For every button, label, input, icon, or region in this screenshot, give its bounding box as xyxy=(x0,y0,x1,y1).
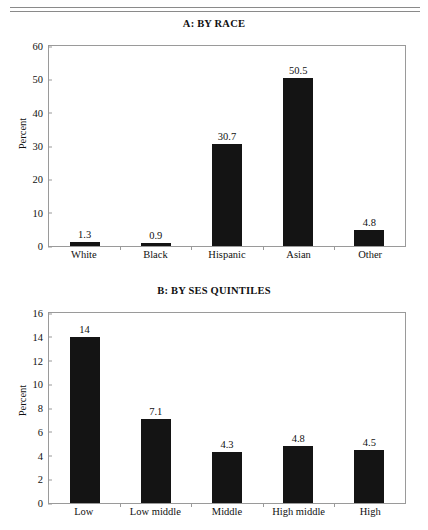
tick-mark-icon xyxy=(48,503,52,504)
chart-a-x-label: White xyxy=(48,249,120,260)
chart-a-x-axis-labels: WhiteBlackHispanicAsianOther xyxy=(48,249,406,260)
chart-a-bar-slot: 4.8 xyxy=(334,46,405,246)
chart-a-bar[interactable]: 50.5 xyxy=(283,78,313,246)
chart-b-plot-frame: 1614121086420 147.14.34.84.5 xyxy=(48,312,406,504)
divider-line-top xyxy=(10,7,420,8)
chart-a-bar-slot: 30.7 xyxy=(191,46,262,246)
chart-a-bar-value-label: 4.8 xyxy=(363,217,376,230)
chart-b-y-tick-12: 12 xyxy=(33,355,50,366)
chart-a-title: A: BY RACE xyxy=(0,18,428,33)
chart-b-bar-value-label: 4.5 xyxy=(363,437,376,450)
chart-b-bar-value-label: 7.1 xyxy=(149,406,162,419)
chart-b-y-tick-10: 10 xyxy=(33,379,50,390)
chart-a-y-tick-30: 30 xyxy=(33,141,50,152)
chart-a-bar-slot: 1.3 xyxy=(49,46,120,246)
chart-b-bar-value-label: 14 xyxy=(79,324,90,337)
chart-a-bar-value-label: 30.7 xyxy=(218,131,236,144)
chart-a-bar[interactable]: 4.8 xyxy=(354,230,384,246)
chart-b-x-axis-labels: LowLow middleMiddleHigh middleHigh xyxy=(48,506,406,517)
chart-b-bar-slot: 7.1 xyxy=(120,313,191,503)
chart-a-bar-slot: 50.5 xyxy=(263,46,334,246)
chart-a-bar[interactable]: 0.9 xyxy=(141,243,171,246)
chart-b-bar[interactable]: 4.3 xyxy=(212,452,242,503)
chart-b-bar-slot: 4.3 xyxy=(191,313,262,503)
chart-b-x-label: High middle xyxy=(263,506,335,517)
chart-a-bar[interactable]: 1.3 xyxy=(70,242,100,246)
chart-b-plot-area: 147.14.34.84.5 xyxy=(49,313,405,503)
chart-a-x-label: Asian xyxy=(263,249,335,260)
chart-a-x-label: Hispanic xyxy=(191,249,263,260)
chart-b-bar[interactable]: 7.1 xyxy=(141,419,171,503)
chart-a-y-axis-label: Percent xyxy=(17,104,28,164)
chart-a-bar-slot: 0.9 xyxy=(120,46,191,246)
chart-a-plot-area: 1.30.930.750.54.8 xyxy=(49,46,405,246)
chart-a-y-tick-20: 20 xyxy=(33,174,50,185)
chart-a-bar[interactable]: 30.7 xyxy=(212,144,242,246)
chart-b-y-tick-2: 2 xyxy=(38,474,49,485)
chart-a-bar-value-label: 1.3 xyxy=(78,229,91,242)
chart-b-y-tick-14: 14 xyxy=(33,331,50,342)
chart-panel-b: B: BY SES QUINTILES Percent 161412108642… xyxy=(0,285,428,530)
chart-a-y-tick-10: 10 xyxy=(33,207,50,218)
chart-b-y-axis-label: Percent xyxy=(17,371,28,431)
chart-b-y-tick-8: 8 xyxy=(38,403,49,414)
chart-b-x-label: Low xyxy=(48,506,120,517)
chart-b-bar[interactable]: 4.5 xyxy=(354,450,384,503)
chart-b-x-label: Middle xyxy=(191,506,263,517)
chart-b-bar-slot: 14 xyxy=(49,313,120,503)
chart-b-x-label: High xyxy=(334,506,406,517)
chart-b-bar[interactable]: 14 xyxy=(70,337,100,503)
chart-b-bar-slot: 4.5 xyxy=(334,313,405,503)
chart-b-y-tick-6: 6 xyxy=(38,426,49,437)
chart-a-y-tick-50: 50 xyxy=(33,74,50,85)
chart-panel-a: A: BY RACE Percent 6050403020100 1.30.93… xyxy=(0,18,428,273)
chart-b-bar-slot: 4.8 xyxy=(263,313,334,503)
chart-b-title: B: BY SES QUINTILES xyxy=(0,285,428,300)
chart-a-x-label: Black xyxy=(120,249,192,260)
chart-b-bar-value-label: 4.8 xyxy=(292,433,305,446)
chart-a-x-label: Other xyxy=(334,249,406,260)
header-divider-group xyxy=(10,7,420,12)
chart-a-bar-value-label: 50.5 xyxy=(289,65,307,78)
chart-b-bar[interactable]: 4.8 xyxy=(283,446,313,503)
divider-line-bottom xyxy=(10,11,420,12)
chart-b-y-tick-16: 16 xyxy=(33,308,50,319)
chart-a-y-tick-60: 60 xyxy=(33,41,50,52)
chart-b-x-label: Low middle xyxy=(120,506,192,517)
chart-b-bar-value-label: 4.3 xyxy=(220,439,233,452)
chart-a-bar-value-label: 0.9 xyxy=(149,230,162,243)
chart-a-plot-frame: 6050403020100 1.30.930.750.54.8 xyxy=(48,45,406,247)
chart-b-y-tick-4: 4 xyxy=(38,450,49,461)
chart-a-y-tick-40: 40 xyxy=(33,107,50,118)
tick-mark-icon xyxy=(48,246,52,247)
